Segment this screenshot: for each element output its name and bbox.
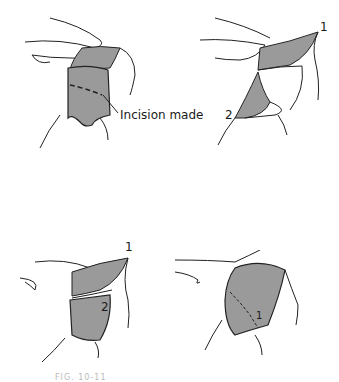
label-flap-2: 2 bbox=[101, 300, 109, 314]
panel-c-illustration bbox=[0, 250, 170, 370]
panel-d-illustration bbox=[170, 250, 339, 370]
panel-c: 1 2 bbox=[0, 250, 170, 370]
panel-a: Incision made bbox=[0, 0, 170, 190]
label-flap-1: 1 bbox=[125, 240, 133, 254]
panel-b-illustration bbox=[170, 0, 339, 190]
panel-d: 1 bbox=[170, 250, 339, 370]
label-flap-1: 1 bbox=[256, 310, 262, 321]
panel-b: 1 2 bbox=[170, 0, 339, 190]
panel-a-illustration bbox=[0, 0, 170, 190]
figure-caption: FIG. 10-11 bbox=[55, 373, 107, 382]
label-flap-2: 2 bbox=[225, 108, 233, 122]
label-flap-1: 1 bbox=[320, 20, 328, 34]
